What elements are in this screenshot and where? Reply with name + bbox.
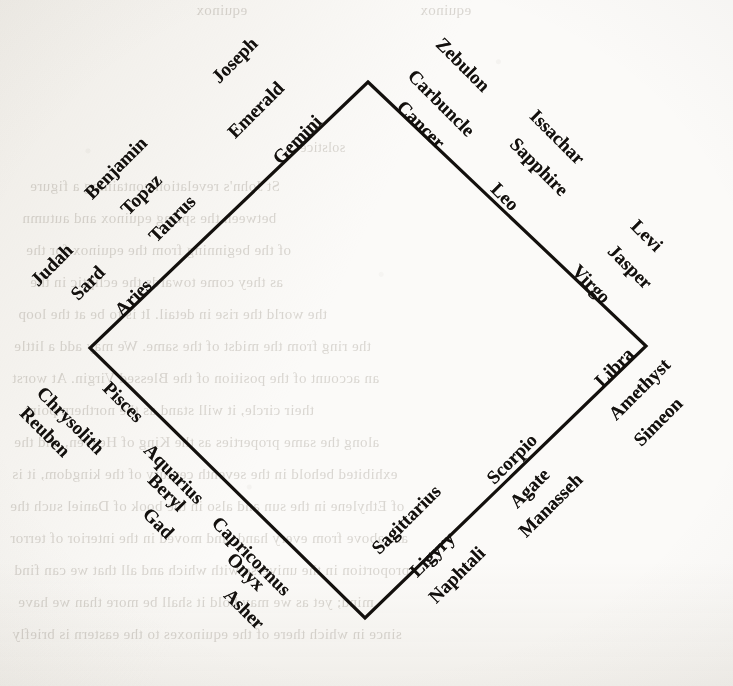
diamond-polygon: [90, 82, 646, 618]
scanned-page: equinoxequinoxsolsticeSt John's revelati…: [0, 0, 733, 686]
